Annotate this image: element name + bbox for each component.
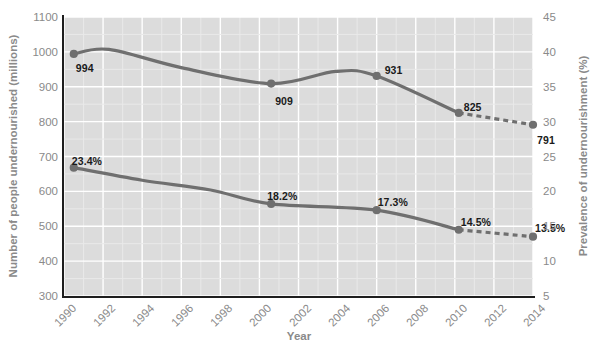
y-axis-left-tick-label: 600 <box>39 185 58 197</box>
data-point-marker <box>529 233 537 241</box>
x-axis-title: Year <box>287 330 311 342</box>
data-point-label: 17.3% <box>378 196 408 208</box>
data-point-label: 994 <box>76 62 94 74</box>
data-point-marker <box>455 109 463 117</box>
y-axis-left-tick-label: 1000 <box>32 46 58 58</box>
y-axis-right-tick-label: 35 <box>543 81 556 93</box>
y-axis-right-tick-label: 10 <box>543 255 556 267</box>
y-axis-right-tick-label: 45 <box>543 11 556 23</box>
y-axis-left-tick-label: 1100 <box>33 11 58 23</box>
y-axis-left-tick-label: 500 <box>39 220 58 232</box>
x-axis-line <box>62 296 535 298</box>
data-point-label: 23.4% <box>72 155 102 167</box>
data-point-label: 791 <box>537 134 555 146</box>
data-point-marker <box>529 121 537 129</box>
data-point-label: 14.5% <box>461 216 491 228</box>
plot-svg-layer <box>0 0 601 351</box>
undernourishment-chart: 99490993182579123.4%18.2%17.3%14.5%13.5%… <box>0 0 601 351</box>
data-point-marker <box>267 80 275 88</box>
y-axis-right-tick-label: 40 <box>543 46 556 58</box>
data-point-label: 825 <box>464 101 482 113</box>
series-line-dashed-0 <box>459 113 533 125</box>
data-point-marker <box>70 50 78 58</box>
data-point-label: 909 <box>275 95 293 107</box>
data-point-label: 931 <box>385 64 403 76</box>
y-axis-left-tick-label: 700 <box>39 151 58 163</box>
y-axis-right-tick-label: 30 <box>543 116 556 128</box>
y-axis-left-tick-label: 400 <box>39 255 58 267</box>
y-axis-right-tick-label: 15 <box>543 220 556 232</box>
y-axis-left-tick-label: 300 <box>39 290 58 302</box>
y-axis-right-tick-label: 20 <box>543 185 556 197</box>
data-point-label: 18.2% <box>267 190 297 202</box>
series-line-solid-0 <box>74 49 459 113</box>
y-axis-left-title: Number of people undernourished (million… <box>7 35 19 278</box>
y-axis-right-tick-label: 25 <box>543 151 556 163</box>
y-axis-left-tick-label: 900 <box>39 81 58 93</box>
y-axis-line <box>62 15 64 298</box>
data-point-marker <box>373 72 381 80</box>
y-axis-left-tick-label: 800 <box>39 116 58 128</box>
y-axis-right-title: Prevalence of undernourishment (%) <box>577 56 589 257</box>
y-axis-right-tick-label: 5 <box>543 290 549 302</box>
series-line-dashed-1 <box>459 230 533 237</box>
